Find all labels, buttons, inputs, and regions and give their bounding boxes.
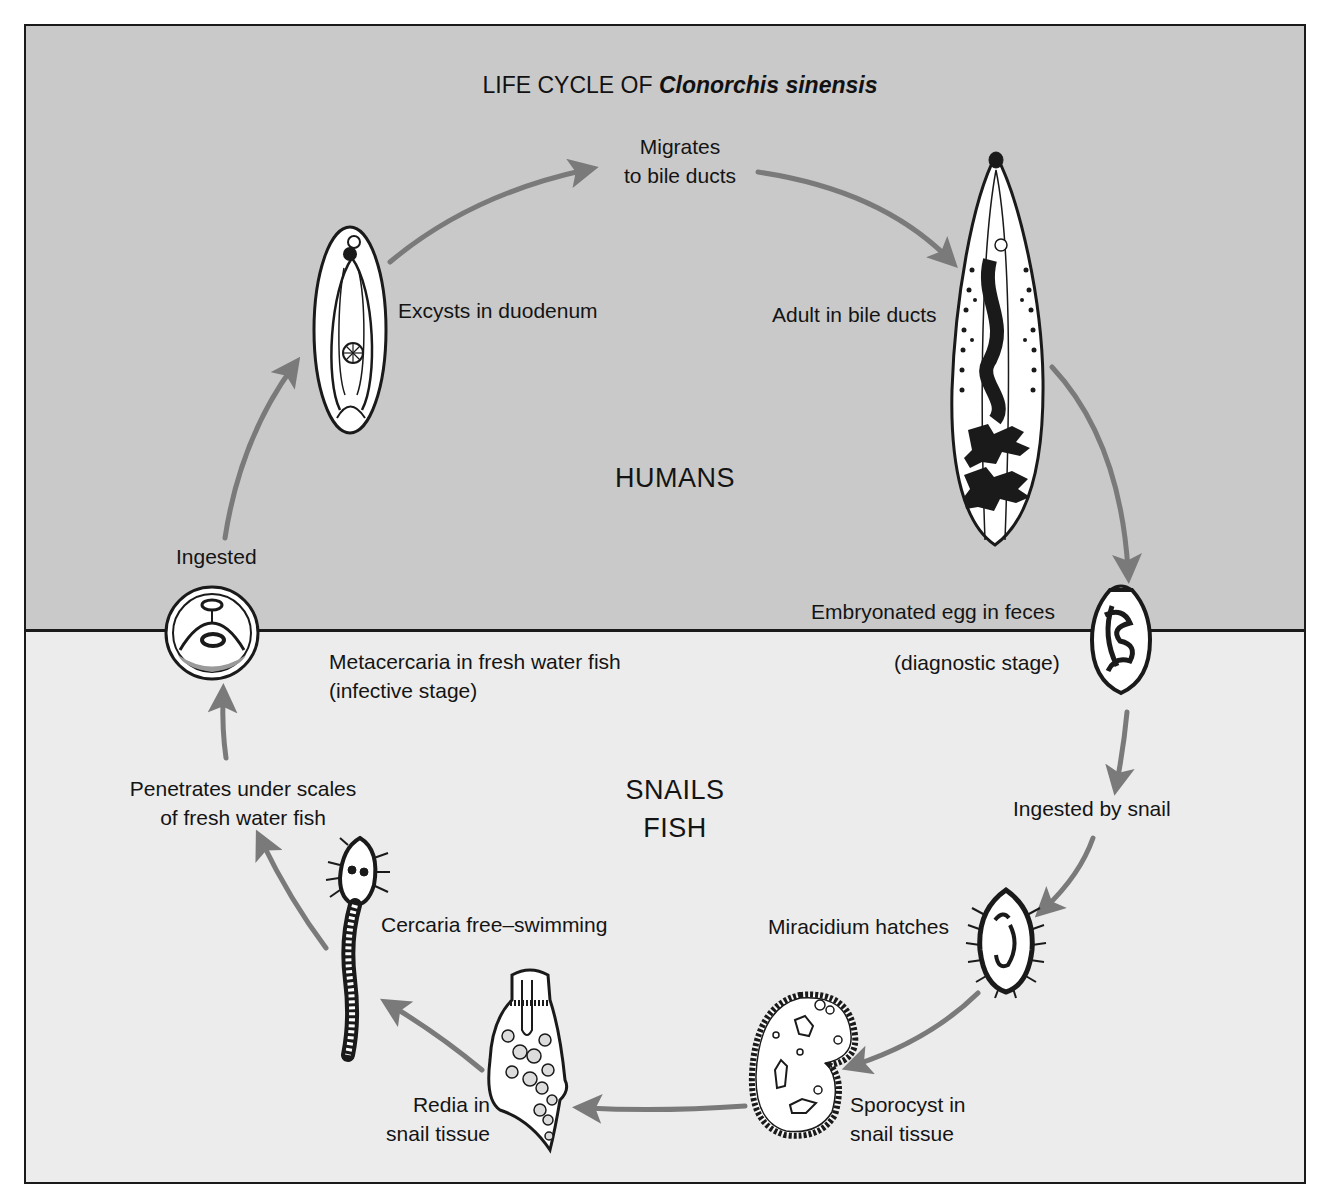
snail-ingestion-label: Ingested by snail <box>1013 794 1171 823</box>
metacercaria-label-line2: (infective stage) <box>329 676 621 705</box>
penetration-label: Penetrates under scales of fresh water f… <box>108 774 378 832</box>
title-species: Clonorchis sinensis <box>659 72 878 98</box>
miracidium-label: Miracidium hatches <box>768 912 949 941</box>
metacercaria-label: Metacercaria in fresh water fish (infect… <box>329 647 621 705</box>
excystation-label: Excysts in duodenum <box>398 296 598 325</box>
embryonated-egg-icon <box>1092 586 1150 693</box>
adult-fluke-icon <box>952 152 1043 545</box>
sporocyst-label-line1: Sporocyst in <box>850 1090 966 1119</box>
arrow-cercaria-to-penetrate <box>262 842 326 948</box>
egg-label: Embryonated egg in feces <box>811 597 1055 626</box>
sporocyst-label-line2: snail tissue <box>850 1119 966 1148</box>
migration-label-line2: to bile ducts <box>590 161 770 190</box>
excysted-larva-icon <box>314 227 386 433</box>
migration-label: Migrates to bile ducts <box>590 132 770 190</box>
fish-region-label: FISH <box>590 810 760 846</box>
metacercaria-cyst-icon <box>166 587 258 679</box>
sporocyst-label: Sporocyst in snail tissue <box>850 1090 966 1148</box>
penetration-label-line2: of fresh water fish <box>108 803 378 832</box>
snails-region-label: SNAILS <box>590 772 760 808</box>
redia-label-line2: snail tissue <box>360 1119 490 1148</box>
metacercaria-label-line1: Metacercaria in fresh water fish <box>329 647 621 676</box>
sporocyst-icon <box>752 995 855 1136</box>
arrow-egg-to-snail <box>1117 712 1127 782</box>
adult-label: Adult in bile ducts <box>772 300 937 329</box>
arrow-migrate-to-adult <box>758 172 948 258</box>
arrow-adult-to-egg <box>1052 367 1128 570</box>
title-prefix: LIFE CYCLE OF <box>483 72 653 98</box>
egg-diagnostic-label: (diagnostic stage) <box>894 648 1060 677</box>
cercaria-label: Cercaria free–swimming <box>381 910 607 939</box>
redia-icon <box>489 970 567 1150</box>
cercaria-icon <box>326 838 390 1055</box>
miracidium-icon <box>966 890 1046 998</box>
diagram-title: LIFE CYCLE OF Clonorchis sinensis <box>440 72 920 99</box>
redia-label: Redia in snail tissue <box>360 1090 490 1148</box>
arrow-redia-to-cercaria <box>392 1006 482 1070</box>
redia-label-line1: Redia in <box>360 1090 490 1119</box>
migration-label-line1: Migrates <box>590 132 770 161</box>
arrow-penetrate-to-metacercaria <box>223 697 226 758</box>
penetration-label-line1: Penetrates under scales <box>108 774 378 803</box>
arrow-ingested-to-excyst <box>225 368 292 538</box>
humans-region-label: HUMANS <box>590 460 760 496</box>
arrow-sporocyst-to-redia <box>586 1106 745 1110</box>
arrow-snail-to-miracidium <box>1045 838 1093 908</box>
ingested-label: Ingested <box>176 542 257 571</box>
arrow-excyst-to-migrate <box>390 170 585 262</box>
arrow-miracidium-to-sporocyst <box>855 993 978 1065</box>
